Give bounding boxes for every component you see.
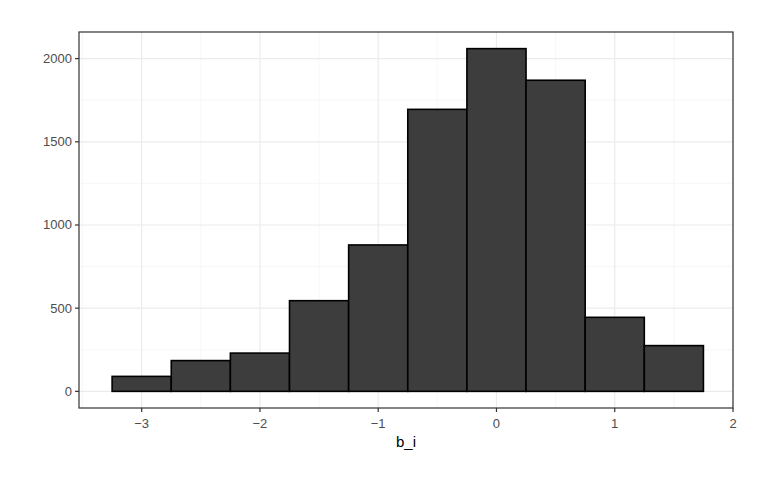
histogram-bar xyxy=(230,353,289,391)
y-tick-label: 0 xyxy=(65,384,72,399)
x-tick-label: 2 xyxy=(729,416,736,431)
histogram-chart: −3−2−1012 0500100015002000 b_i xyxy=(0,0,770,480)
histogram-bar xyxy=(349,245,408,391)
x-tick-label: −2 xyxy=(253,416,268,431)
y-tick-label: 1500 xyxy=(43,134,72,149)
histogram-bar xyxy=(290,301,349,392)
y-tick-label: 1000 xyxy=(43,217,72,232)
x-tick-label: −3 xyxy=(134,416,149,431)
y-tick-label: 2000 xyxy=(43,51,72,66)
histogram-bar xyxy=(408,109,467,391)
x-axis-title: b_i xyxy=(396,433,416,450)
x-tick-label: −1 xyxy=(371,416,386,431)
histogram-bar xyxy=(171,361,230,392)
x-tick-label: 1 xyxy=(611,416,618,431)
x-tick-label: 0 xyxy=(493,416,500,431)
histogram-bar xyxy=(644,346,703,392)
histogram-bar xyxy=(585,317,644,391)
histogram-bar xyxy=(526,80,585,391)
histogram-bar xyxy=(112,376,171,391)
y-tick-label: 500 xyxy=(50,301,72,316)
histogram-bar xyxy=(467,49,526,392)
